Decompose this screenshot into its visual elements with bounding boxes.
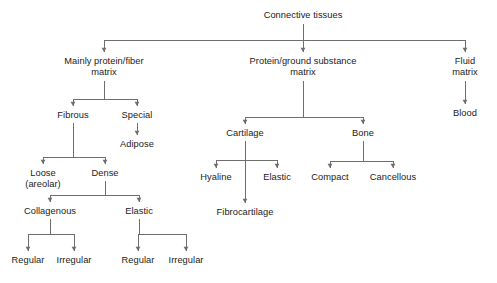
- connector-arrowhead: [136, 247, 141, 251]
- connector-special: [135, 123, 140, 135]
- node-label-line: Protein/ground substance: [250, 56, 357, 67]
- node-label-line: Blood: [453, 108, 477, 119]
- node-elastic-regular: Regular: [122, 255, 155, 266]
- node-label-line: Loose: [25, 168, 61, 179]
- node-mainly-protein-fiber: Mainly protein/fibermatrix: [64, 56, 143, 79]
- connector-arrowhead: [135, 131, 140, 135]
- connector-dense: [48, 181, 142, 202]
- node-adipose: Adipose: [120, 139, 154, 150]
- node-connective-tissues: Connective tissues: [264, 10, 343, 21]
- node-compact: Compact: [311, 172, 348, 183]
- connector-arrowhead: [463, 100, 468, 104]
- node-label-line: Mainly protein/fiber: [64, 56, 143, 67]
- node-label-line: Regular: [122, 255, 155, 266]
- connector-fluid-matrix: [463, 81, 468, 104]
- node-cartilage: Cartilage: [226, 128, 264, 139]
- node-label-line: (areolar): [25, 179, 61, 190]
- node-bone: Bone: [352, 128, 374, 139]
- node-elastic-dense: Elastic: [125, 206, 153, 217]
- connector-arrowhead: [463, 48, 468, 52]
- connector-arrowhead: [102, 48, 107, 52]
- connector-arrowhead: [214, 164, 219, 168]
- node-collagenous-regular: Regular: [12, 255, 45, 266]
- connector-elastic-dense: [136, 219, 189, 251]
- node-elastic-irregular: Irregular: [169, 255, 204, 266]
- connector-mainly-protein-fiber: [71, 81, 140, 106]
- connector-cartilage: [243, 141, 248, 203]
- connector-arrowhead: [184, 247, 189, 251]
- node-collagenous-irregular: Irregular: [57, 255, 92, 266]
- node-collagenous: Collagenous: [24, 206, 76, 217]
- connector-cartilage: [214, 141, 280, 168]
- connector-arrowhead: [243, 120, 248, 124]
- connector-fibrous: [41, 123, 108, 164]
- node-cancellous: Cancellous: [370, 172, 416, 183]
- connector-arrowhead: [71, 102, 76, 106]
- node-label-line: Special: [122, 110, 153, 121]
- node-label-line: Elastic: [263, 172, 291, 183]
- node-special: Special: [122, 110, 153, 121]
- connector-layer: [0, 0, 497, 283]
- node-label-line: Cancellous: [370, 172, 416, 183]
- connector-arrowhead: [391, 164, 396, 168]
- connector-arrowhead: [243, 199, 248, 203]
- node-label-line: Dense: [91, 168, 118, 179]
- node-label-line: Regular: [12, 255, 45, 266]
- node-label-line: Irregular: [57, 255, 92, 266]
- node-label-line: Fibrocartilage: [217, 207, 274, 218]
- node-hyaline: Hyaline: [200, 172, 231, 183]
- node-label-line: Elastic: [125, 206, 153, 217]
- connector-arrowhead: [361, 120, 366, 124]
- node-elastic-cartilage: Elastic: [263, 172, 291, 183]
- node-fibrous: Fibrous: [57, 110, 88, 121]
- node-dense: Dense: [91, 168, 118, 179]
- node-loose-areolar: Loose(areolar): [25, 168, 61, 191]
- node-label-line: Hyaline: [200, 172, 231, 183]
- node-label-line: Fibrous: [57, 110, 88, 121]
- connector-protein-ground: [243, 81, 366, 124]
- node-label-line: Fluid: [452, 56, 478, 67]
- node-label-line: Adipose: [120, 139, 154, 150]
- connector-arrowhead: [328, 164, 333, 168]
- connector-arrowhead: [41, 160, 46, 164]
- node-label-line: matrix: [452, 67, 478, 78]
- connector-bone: [328, 141, 396, 168]
- node-fluid-matrix: Fluidmatrix: [452, 56, 478, 79]
- node-label-line: Bone: [352, 128, 374, 139]
- connector-arrowhead: [26, 247, 31, 251]
- connector-arrowhead: [72, 247, 77, 251]
- node-label-line: Collagenous: [24, 206, 76, 217]
- node-blood: Blood: [453, 108, 477, 119]
- connector-arrowhead: [48, 198, 53, 202]
- node-label-line: matrix: [250, 67, 357, 78]
- connector-arrowhead: [275, 164, 280, 168]
- connector-arrowhead: [135, 102, 140, 106]
- node-label-line: Connective tissues: [264, 10, 343, 21]
- node-fibrocartilage: Fibrocartilage: [217, 207, 274, 218]
- connector-collagenous: [26, 219, 77, 251]
- connector-arrowhead: [137, 198, 142, 202]
- node-protein-ground: Protein/ground substancematrix: [250, 56, 357, 79]
- connective-tissue-classification-diagram: Connective tissuesMainly protein/fiberma…: [0, 0, 497, 283]
- node-label-line: Cartilage: [226, 128, 264, 139]
- connector-arrowhead: [103, 160, 108, 164]
- node-label-line: matrix: [64, 67, 143, 78]
- connector-connective-tissues: [102, 24, 468, 52]
- connector-arrowhead: [301, 48, 306, 52]
- node-label-line: Compact: [311, 172, 348, 183]
- node-label-line: Irregular: [169, 255, 204, 266]
